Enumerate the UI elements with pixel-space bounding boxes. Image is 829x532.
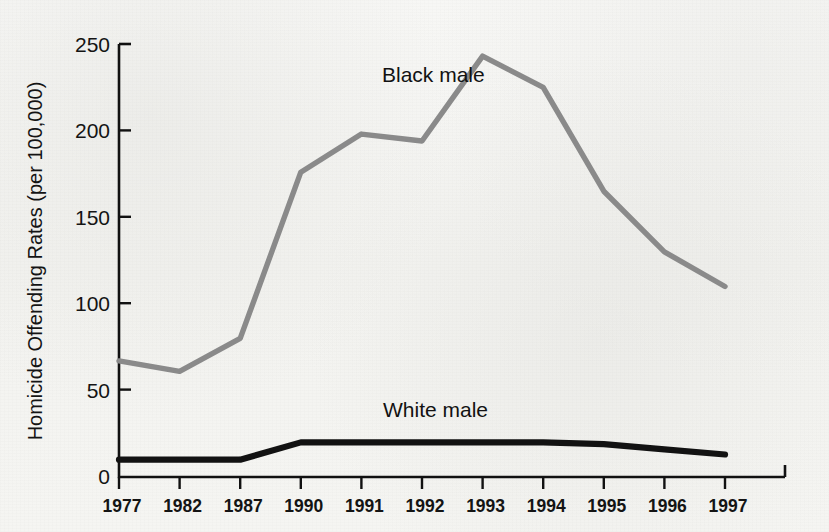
- y-axis-tick-labels: 250 200 150 100 50 0: [75, 33, 110, 488]
- series-label-white-male: White male: [383, 398, 488, 421]
- x-axis-ticks: [119, 477, 725, 489]
- y-axis-ticks: [119, 130, 131, 389]
- x-tick-1996: 1996: [648, 496, 687, 516]
- x-tick-1993: 1993: [466, 496, 505, 516]
- x-tick-1987: 1987: [224, 496, 263, 516]
- x-tick-1977: 1977: [103, 496, 142, 516]
- x-tick-1994: 1994: [527, 496, 566, 516]
- y-tick-100: 100: [75, 292, 110, 315]
- y-tick-200: 200: [75, 119, 110, 142]
- x-tick-1992: 1992: [406, 496, 445, 516]
- x-tick-1990: 1990: [284, 496, 323, 516]
- series-line-black-male: [119, 56, 725, 371]
- y-tick-0: 0: [98, 465, 110, 488]
- y-axis-title: Homicide Offending Rates (per 100,000): [24, 82, 46, 441]
- x-tick-1995: 1995: [587, 496, 626, 516]
- y-tick-50: 50: [87, 379, 110, 402]
- y-tick-150: 150: [75, 206, 110, 229]
- chart-figure: 250 200 150 100 50 0 1977 1982 1987 1: [0, 0, 829, 532]
- x-tick-1997: 1997: [709, 496, 748, 516]
- series-line-white-male: [119, 442, 725, 459]
- y-tick-250: 250: [75, 33, 110, 56]
- x-tick-1991: 1991: [345, 496, 384, 516]
- line-chart-plot: 250 200 150 100 50 0 1977 1982 1987 1: [0, 0, 829, 532]
- series-label-black-male: Black male: [382, 63, 485, 86]
- x-tick-1982: 1982: [163, 496, 202, 516]
- x-axis-tick-labels: 1977 1982 1987 1990 1991 1992 1993 1994 …: [103, 496, 748, 516]
